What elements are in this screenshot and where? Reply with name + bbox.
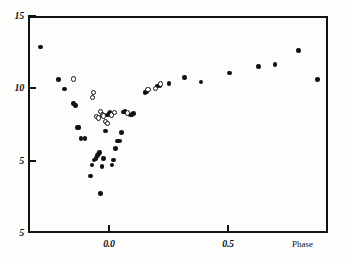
data-point-filled [110, 163, 115, 168]
y-tick-label: 15 [2, 10, 24, 21]
data-point-open [90, 95, 95, 100]
figure-canvas: 551015 0.00.5 Phase [0, 0, 351, 257]
data-point-open [153, 86, 158, 91]
y-tick [28, 87, 36, 89]
data-point-filled [101, 156, 106, 161]
data-point-filled [167, 81, 172, 86]
data-point-open [71, 76, 76, 81]
data-point-filled [296, 48, 301, 53]
y-tick-label: 10 [2, 82, 24, 93]
data-point-filled [38, 45, 43, 50]
data-point-filled [90, 163, 95, 168]
y-tick [28, 15, 36, 17]
data-point-filled [73, 103, 78, 108]
data-point-filled [103, 129, 108, 134]
data-point-filled [97, 150, 102, 155]
data-point-filled [83, 136, 88, 141]
data-point-filled [256, 64, 261, 69]
x-tick-label: 0.5 [213, 238, 243, 249]
data-point-open [105, 121, 110, 126]
data-point-filled [199, 80, 204, 85]
data-point-filled [182, 75, 187, 80]
data-point-filled [100, 164, 105, 169]
y-tick-label: 5 [2, 227, 24, 238]
data-point-filled [98, 191, 103, 196]
data-point-filled [117, 139, 122, 144]
data-point-open [91, 90, 96, 95]
x-tick [108, 225, 110, 233]
y-tick-label: 5 [2, 155, 24, 166]
y-tick [28, 160, 36, 162]
data-point-filled [315, 77, 320, 82]
data-point-filled [119, 130, 124, 135]
data-point-filled [131, 111, 136, 116]
x-tick [227, 225, 229, 233]
data-point-filled [227, 71, 232, 76]
x-tick-label: 0.0 [94, 238, 124, 249]
data-point-open [125, 110, 130, 115]
data-point-filled [77, 125, 82, 130]
data-point-open [112, 110, 117, 115]
data-point-filled [113, 146, 118, 151]
data-point-filled [62, 87, 67, 92]
data-point-filled [111, 158, 116, 163]
x-axis-caption: Phase [292, 239, 313, 249]
data-point-filled [88, 174, 93, 179]
data-point-filled [273, 62, 278, 67]
plot-area [28, 16, 328, 233]
data-point-open [158, 81, 163, 86]
data-point-filled [56, 77, 61, 82]
data-point-open [101, 113, 106, 118]
data-point-open [145, 87, 150, 92]
